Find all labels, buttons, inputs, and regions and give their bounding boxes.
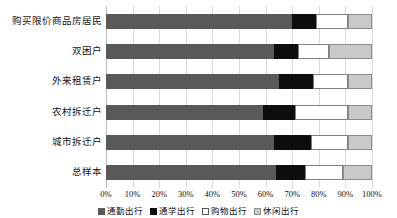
bar-segment <box>348 74 372 89</box>
bar-segment <box>106 165 276 180</box>
bar-row <box>106 74 372 89</box>
bar-segment <box>292 14 316 29</box>
bar-segment <box>295 105 348 120</box>
x-tick-label: 20% <box>151 189 167 199</box>
bar-segment <box>263 105 295 120</box>
bar-row <box>106 44 372 59</box>
legend-swatch-icon <box>98 208 105 215</box>
legend-item: 通勤出行 <box>98 206 143 216</box>
bar-segment <box>106 44 274 59</box>
bar-segment <box>343 165 372 180</box>
category-label: 购买限价商品房居民 <box>2 16 102 27</box>
bar-row <box>106 105 372 120</box>
x-tick-label: 100% <box>362 189 382 199</box>
bar-segment <box>279 74 314 89</box>
bar-segment <box>106 135 274 150</box>
category-label: 城市拆迁户 <box>2 137 102 148</box>
legend-swatch-icon <box>254 208 261 215</box>
legend-item: 购物出行 <box>202 206 247 216</box>
bar-segment <box>106 105 263 120</box>
x-tick-label: 40% <box>205 189 221 199</box>
bar-segment <box>274 135 311 150</box>
category-axis-labels: 购买限价商品房居民双困户外来租赁户农村拆迁户城市拆迁户总样本 <box>0 6 102 188</box>
bar-segment <box>274 44 298 59</box>
legend-swatch-icon <box>150 208 157 215</box>
legend-swatch-icon <box>202 208 209 215</box>
bar-segment <box>348 14 372 29</box>
bar-segment <box>276 165 305 180</box>
category-label: 外来租赁户 <box>2 76 102 87</box>
x-tick-label: 30% <box>178 189 194 199</box>
bar-rows <box>106 6 372 188</box>
x-tick-label: 70% <box>284 189 300 199</box>
bar-segment <box>348 105 372 120</box>
legend-label: 通学出行 <box>159 206 195 216</box>
bar-segment <box>305 165 342 180</box>
bar-segment <box>106 74 279 89</box>
bar-segment <box>348 135 372 150</box>
bar-segment <box>106 14 292 29</box>
bar-segment <box>298 44 330 59</box>
legend-item: 通学出行 <box>150 206 195 216</box>
x-tick-label: 50% <box>231 189 247 199</box>
x-tick-label: 90% <box>338 189 354 199</box>
legend-label: 通勤出行 <box>107 206 143 216</box>
bar-segment <box>311 135 348 150</box>
bar-row <box>106 165 372 180</box>
category-label: 双困户 <box>2 46 102 57</box>
gridline-100 <box>372 6 373 188</box>
x-tick-label: 60% <box>258 189 274 199</box>
bar-row <box>106 135 372 150</box>
category-label: 农村拆迁户 <box>2 107 102 118</box>
x-tick-label: 10% <box>125 189 141 199</box>
bar-segment <box>329 44 372 59</box>
x-axis-tick-labels: 0%10%20%30%40%50%60%70%80%90%100% <box>106 188 372 202</box>
legend-label: 休闲出行 <box>263 206 299 216</box>
category-label: 总样本 <box>2 167 102 178</box>
x-tick-label: 0% <box>100 189 111 199</box>
bar-segment <box>316 14 348 29</box>
bar-segment <box>313 74 348 89</box>
x-tick-label: 80% <box>311 189 327 199</box>
stacked-bar-chart: 购买限价商品房居民双困户外来租赁户农村拆迁户城市拆迁户总样本 0%10%20%3… <box>0 0 397 218</box>
legend-label: 购物出行 <box>211 206 247 216</box>
legend-item: 休闲出行 <box>254 206 299 216</box>
plot-area <box>106 6 372 188</box>
chart-legend: 通勤出行通学出行购物出行休闲出行 <box>0 204 397 218</box>
bar-row <box>106 14 372 29</box>
